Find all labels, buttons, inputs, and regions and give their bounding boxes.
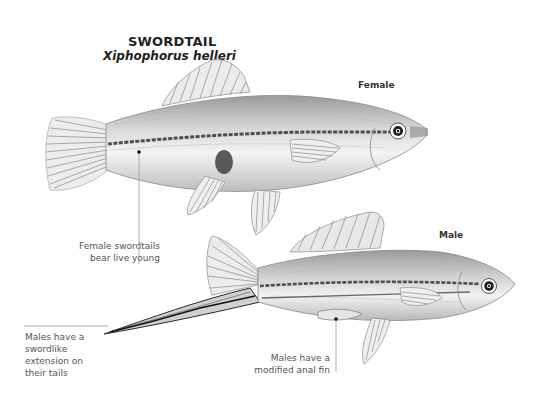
male-anal-leader-dot <box>334 317 338 321</box>
female-fish <box>46 60 428 235</box>
male-fish <box>104 212 515 364</box>
illustration <box>0 0 551 400</box>
male-eye-icon <box>482 279 497 294</box>
female-leader-dot <box>137 150 141 154</box>
male-body <box>258 250 515 320</box>
female-eye-icon <box>390 123 406 139</box>
female-tail-fin <box>46 117 108 190</box>
female-gravid-spot <box>215 150 233 174</box>
